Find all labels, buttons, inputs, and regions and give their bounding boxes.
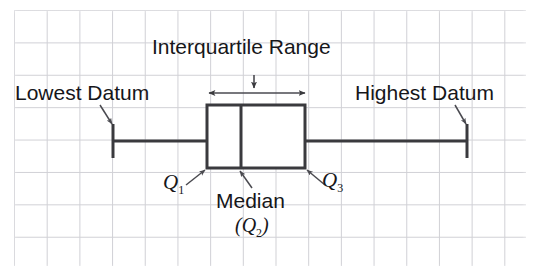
q1-letter: Q bbox=[163, 170, 178, 194]
q1-leader-arrow bbox=[186, 170, 205, 185]
interquartile-range-label: Interquartile Range bbox=[152, 36, 331, 57]
q1-label: Q1 bbox=[163, 172, 184, 196]
q3-label: Q3 bbox=[322, 170, 343, 194]
lowest-datum-label: Lowest Datum bbox=[15, 82, 149, 103]
q3-subscript: 3 bbox=[337, 181, 343, 195]
q3-letter: Q bbox=[322, 168, 337, 192]
median-label: Median bbox=[216, 190, 285, 211]
highest-datum-leader-arrow bbox=[455, 105, 466, 124]
q1-subscript: 1 bbox=[178, 183, 184, 197]
iqr-box bbox=[207, 105, 305, 168]
box-plot-figure: Interquartile Range Lowest Datum Highest… bbox=[0, 0, 534, 274]
highest-datum-label: Highest Datum bbox=[355, 82, 494, 103]
q2-open-paren-letter: (Q bbox=[235, 214, 256, 236]
median-leader-arrow bbox=[240, 171, 252, 188]
median-q2-label: (Q2) bbox=[235, 215, 269, 239]
q2-close-paren: ) bbox=[262, 214, 269, 236]
lowest-datum-leader-arrow bbox=[100, 105, 112, 124]
